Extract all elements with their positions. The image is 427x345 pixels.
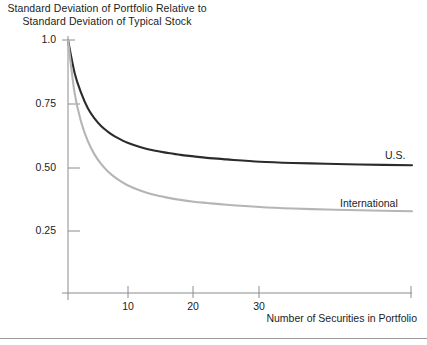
y-tick-label-3: 0.50 [12, 161, 56, 173]
plot-area [0, 0, 427, 345]
x-tick-label-10: 10 [113, 300, 143, 312]
x-tick-label-30: 30 [244, 300, 274, 312]
series-line-international [68, 40, 412, 211]
y-tick-label-1: 1.0 [12, 33, 56, 45]
x-tick-label-20: 20 [178, 300, 208, 312]
chart-page: Standard Deviation of Portfolio Relative… [0, 0, 427, 345]
series-line-us [68, 40, 412, 165]
y-tick-label-2: 0.75 [12, 97, 56, 109]
data-series-group [68, 40, 412, 211]
x-tick-marks [128, 286, 411, 298]
axes [62, 36, 412, 300]
x-axis-title: Number of Securities in Portfolio [255, 312, 417, 324]
y-tick-label-4: 0.25 [12, 224, 56, 236]
series-label-us: U.S. [385, 149, 405, 161]
series-label-international: International [340, 197, 398, 209]
bottom-divider [0, 338, 427, 339]
